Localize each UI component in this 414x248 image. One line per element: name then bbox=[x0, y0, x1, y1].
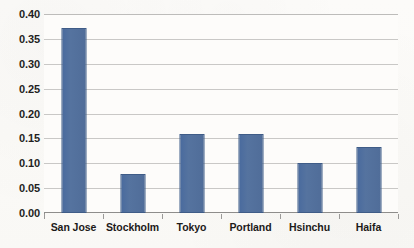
x-axis-tick bbox=[221, 214, 222, 219]
bar-stockholm[interactable] bbox=[120, 174, 145, 213]
y-axis-tick-label: 0.25 bbox=[2, 83, 40, 95]
x-axis-tick bbox=[162, 214, 163, 219]
y-axis-tick-label: 0.20 bbox=[2, 108, 40, 120]
x-axis-category-label: Stockholm bbox=[106, 221, 159, 233]
bar-chart: 0.000.050.100.150.200.250.300.350.40 San… bbox=[0, 0, 414, 248]
x-axis-category-label: Portland bbox=[229, 221, 271, 233]
bar-san-jose[interactable] bbox=[61, 28, 86, 213]
bar-portland[interactable] bbox=[238, 134, 263, 213]
bar-slot bbox=[280, 14, 339, 213]
y-axis-tick-label: 0.30 bbox=[2, 58, 40, 70]
y-axis-tick-label: 0.10 bbox=[2, 157, 40, 169]
bar-tokyo[interactable] bbox=[179, 134, 204, 213]
bar-slot bbox=[162, 14, 221, 213]
x-axis-category-label: Hsinchu bbox=[289, 221, 330, 233]
bar-hsinchu[interactable] bbox=[297, 163, 322, 213]
bar-slot bbox=[44, 14, 103, 213]
y-axis-tick-label: 0.00 bbox=[2, 207, 40, 219]
bar-haifa[interactable] bbox=[356, 147, 381, 213]
x-axis-tick bbox=[103, 214, 104, 219]
y-axis-tick-label: 0.40 bbox=[2, 8, 40, 20]
x-axis-category-label: Tokyo bbox=[177, 221, 207, 233]
y-axis-labels: 0.000.050.100.150.200.250.300.350.40 bbox=[0, 0, 40, 248]
x-axis-category-label: Haifa bbox=[356, 221, 381, 233]
y-axis-tick-label: 0.35 bbox=[2, 33, 40, 45]
bar-slot bbox=[103, 14, 162, 213]
y-axis-tick-label: 0.15 bbox=[2, 132, 40, 144]
x-axis-tick bbox=[280, 214, 281, 219]
x-axis-tick bbox=[44, 214, 45, 219]
y-axis-tick-label: 0.05 bbox=[2, 182, 40, 194]
x-axis-category-label: San Jose bbox=[51, 221, 97, 233]
plot-area bbox=[44, 14, 398, 213]
bar-slot bbox=[221, 14, 280, 213]
bar-slot bbox=[339, 14, 398, 213]
x-axis-tick bbox=[339, 214, 340, 219]
x-axis-tick bbox=[398, 214, 399, 219]
